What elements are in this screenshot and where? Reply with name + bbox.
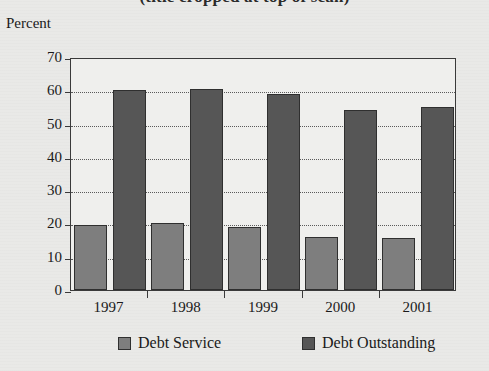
legend-item-debt-outstanding[interactable]: Debt Outstanding — [302, 334, 435, 352]
x-tick-4 — [379, 291, 380, 298]
bar-debt-service-1999[interactable] — [228, 227, 261, 290]
legend-label: Debt Outstanding — [322, 334, 435, 352]
x-tick-label-1998: 1998 — [151, 299, 221, 316]
bar-debt-service-1998[interactable] — [151, 223, 184, 290]
bar-group-2000 — [303, 59, 380, 290]
bar-group-2001 — [380, 59, 457, 290]
y-tick-label-40: 40 — [28, 150, 62, 165]
bar-debt-outstanding-2000[interactable] — [344, 110, 377, 290]
y-tick-label-50: 50 — [28, 117, 62, 132]
legend-swatch-debt-service — [118, 337, 131, 350]
bar-debt-outstanding-1999[interactable] — [267, 94, 300, 290]
y-tick-0 — [65, 292, 71, 293]
y-axis-unit-label: Percent — [6, 15, 51, 32]
x-tick-label-2000: 2000 — [305, 299, 375, 316]
x-tick-label-1999: 1999 — [228, 299, 298, 316]
bar-debt-outstanding-2001[interactable] — [421, 107, 454, 290]
x-tick-1 — [147, 291, 148, 298]
y-tick-label-30: 30 — [28, 183, 62, 198]
plot-area — [70, 58, 456, 291]
bar-debt-service-2001[interactable] — [382, 238, 415, 290]
bar-group-1997 — [71, 59, 148, 290]
bar-group-1998 — [148, 59, 225, 290]
bar-debt-service-2000[interactable] — [305, 237, 338, 290]
legend-swatch-debt-outstanding — [302, 337, 315, 350]
bar-debt-outstanding-1998[interactable] — [190, 89, 223, 290]
bar-debt-service-1997[interactable] — [74, 225, 107, 290]
legend-label: Debt Service — [138, 334, 221, 352]
legend-item-debt-service[interactable]: Debt Service — [118, 334, 221, 352]
x-tick-2 — [224, 291, 225, 298]
chart-legend: Debt ServiceDebt Outstanding — [0, 334, 489, 358]
bar-group-1999 — [225, 59, 302, 290]
chart-title: (title cropped at top of scan) — [0, 0, 489, 7]
y-tick-label-10: 10 — [28, 250, 62, 265]
y-tick-label-70: 70 — [28, 50, 62, 65]
y-tick-label-60: 60 — [28, 83, 62, 98]
x-tick-label-2001: 2001 — [382, 299, 452, 316]
y-axis-tick-labels: 010203040506070 — [22, 58, 62, 291]
y-tick-label-20: 20 — [28, 216, 62, 231]
x-tick-3 — [302, 291, 303, 298]
chart-page: (title cropped at top of scan) Percent 0… — [0, 0, 489, 371]
y-tick-label-0: 0 — [28, 283, 62, 298]
bar-debt-outstanding-1997[interactable] — [113, 90, 146, 290]
x-tick-label-1997: 1997 — [74, 299, 144, 316]
